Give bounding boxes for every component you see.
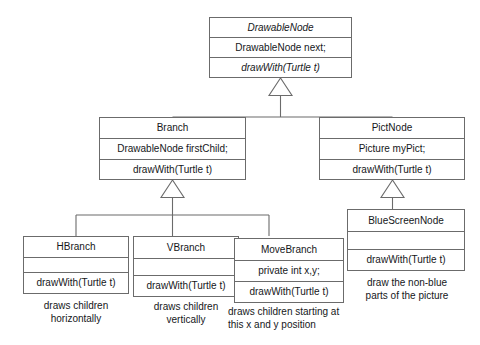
class-attribute-movebranch: private int x,y; xyxy=(235,261,343,282)
class-name-movebranch: MoveBranch xyxy=(235,239,343,261)
class-name-vbranch: VBranch xyxy=(134,237,238,259)
class-box-drawablenode[interactable]: DrawableNode DrawableNode next; drawWith… xyxy=(209,17,352,78)
class-name-hbranch: HBranch xyxy=(24,237,128,258)
note-hbranch: draws children horizontally xyxy=(23,300,129,325)
class-operation-movebranch: drawWith(Turtle t) xyxy=(235,282,343,302)
class-name-pictnode: PictNode xyxy=(320,118,464,139)
note-vbranch: draws children vertically xyxy=(130,301,242,326)
class-attribute-pictnode: Picture myPict; xyxy=(320,139,464,160)
generalization-branch xyxy=(76,180,269,236)
class-operation-pictnode: drawWith(Turtle t) xyxy=(320,160,464,179)
generalization-pictnode xyxy=(381,180,404,209)
class-box-movebranch[interactable]: MoveBranch private int x,y; drawWith(Tur… xyxy=(234,238,344,303)
note-movebranch: draws children starting at this x and y … xyxy=(228,306,368,331)
class-operation-bluescreennode: drawWith(Turtle t) xyxy=(348,250,464,270)
class-attribute-hbranch xyxy=(24,258,128,273)
class-attribute-bluescreennode xyxy=(348,232,464,250)
class-box-branch[interactable]: Branch DrawableNode firstChild; drawWith… xyxy=(99,117,246,180)
uml-class-diagram: DrawableNode DrawableNode next; drawWith… xyxy=(0,0,480,345)
class-attribute-drawablenode: DrawableNode next; xyxy=(210,38,351,58)
generalization-drawablenode xyxy=(173,78,393,118)
class-operation-hbranch: drawWith(Turtle t) xyxy=(24,273,128,293)
class-name-branch: Branch xyxy=(100,118,245,139)
class-box-hbranch[interactable]: HBranch drawWith(Turtle t) xyxy=(23,236,129,294)
class-attribute-vbranch xyxy=(134,259,238,276)
class-operation-branch: drawWith(Turtle t) xyxy=(100,160,245,179)
note-bluescreennode: draw the non-blue parts of the picture xyxy=(346,277,468,302)
class-box-pictnode[interactable]: PictNode Picture myPict; drawWith(Turtle… xyxy=(319,117,465,180)
class-name-drawablenode: DrawableNode xyxy=(210,18,351,38)
class-name-bluescreennode: BlueScreenNode xyxy=(348,210,464,232)
class-attribute-branch: DrawableNode firstChild; xyxy=(100,139,245,160)
class-box-vbranch[interactable]: VBranch drawWith(Turtle t) xyxy=(133,236,239,297)
class-operation-vbranch: drawWith(Turtle t) xyxy=(134,276,238,296)
class-operation-drawablenode: drawWith(Turtle t) xyxy=(210,58,351,77)
class-box-bluescreennode[interactable]: BlueScreenNode drawWith(Turtle t) xyxy=(347,209,465,271)
